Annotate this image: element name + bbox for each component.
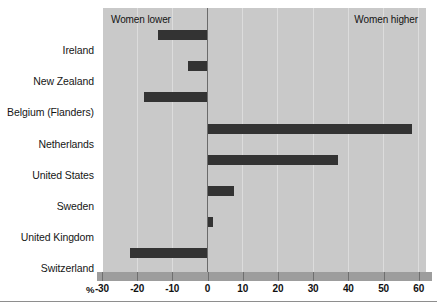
x-axis-unit-label: % — [86, 284, 94, 295]
bar-ireland — [158, 30, 207, 40]
category-label-ireland: Ireland — [0, 45, 94, 56]
zero-line — [207, 8, 209, 272]
axis-tick-0 — [208, 272, 209, 281]
axis-tick-30 — [313, 272, 314, 281]
category-label-sweden: Sweden — [0, 201, 94, 212]
chart-figure: Ireland New Zealand Belgium (Flanders) N… — [0, 0, 437, 306]
annotation-women-higher: Women higher — [354, 14, 418, 25]
axis-tick-label-20: 20 — [273, 283, 284, 294]
category-label-united-kingdom: United Kingdom — [0, 232, 94, 243]
category-label-new-zealand: New Zealand — [0, 76, 94, 87]
bar-united-states — [208, 155, 338, 165]
bar-netherlands — [208, 124, 412, 134]
axis-tick-label--10: -10 — [165, 283, 179, 294]
axis-tick-label-30: 30 — [308, 283, 319, 294]
axis-tick-50 — [384, 272, 385, 281]
bar-united-kingdom — [208, 217, 213, 227]
axis-tick-label--30: -30 — [95, 283, 109, 294]
axis-tick--20 — [137, 272, 138, 281]
bar-sweden — [208, 186, 234, 196]
category-axis-labels: Ireland New Zealand Belgium (Flanders) N… — [0, 20, 100, 272]
axis-tick-label--20: -20 — [130, 283, 144, 294]
axis-tick-60 — [419, 272, 420, 281]
gridline-10 — [242, 8, 243, 272]
bar-belgium-flanders — [144, 92, 207, 102]
axis-tick-20 — [278, 272, 279, 281]
bar-new-zealand — [188, 61, 207, 71]
axis-tick-10 — [243, 272, 244, 281]
axis-tick--10 — [172, 272, 173, 281]
category-label-belgium-flanders: Belgium (Flanders) — [0, 107, 94, 118]
category-label-united-states: United States — [0, 170, 94, 181]
bottom-rule — [0, 301, 437, 302]
gridline-60 — [418, 8, 419, 272]
annotation-women-lower: Women lower — [111, 14, 171, 25]
axis-tick-label-10: 10 — [237, 283, 248, 294]
x-axis-tick-labels: -30-20-100102030405060 — [0, 283, 437, 299]
gridline-30 — [313, 8, 314, 272]
axis-tick-label-0: 0 — [205, 283, 210, 294]
gridline--10 — [172, 8, 173, 272]
bar-switzerland — [130, 248, 207, 258]
category-label-switzerland: Switzerland — [0, 263, 94, 274]
axis-tick-label-40: 40 — [343, 283, 354, 294]
axis-tick-40 — [348, 272, 349, 281]
gridline-20 — [277, 8, 278, 272]
gridline-50 — [383, 8, 384, 272]
axis-tick-label-50: 50 — [378, 283, 389, 294]
axis-tick-label-60: 60 — [413, 283, 424, 294]
gridline--20 — [137, 8, 138, 272]
gridline-40 — [348, 8, 349, 272]
axis-tick--30 — [102, 272, 103, 281]
x-axis-strip — [97, 272, 432, 281]
plot-area: Women lower Women higher — [103, 8, 426, 272]
category-label-netherlands: Netherlands — [0, 139, 94, 150]
